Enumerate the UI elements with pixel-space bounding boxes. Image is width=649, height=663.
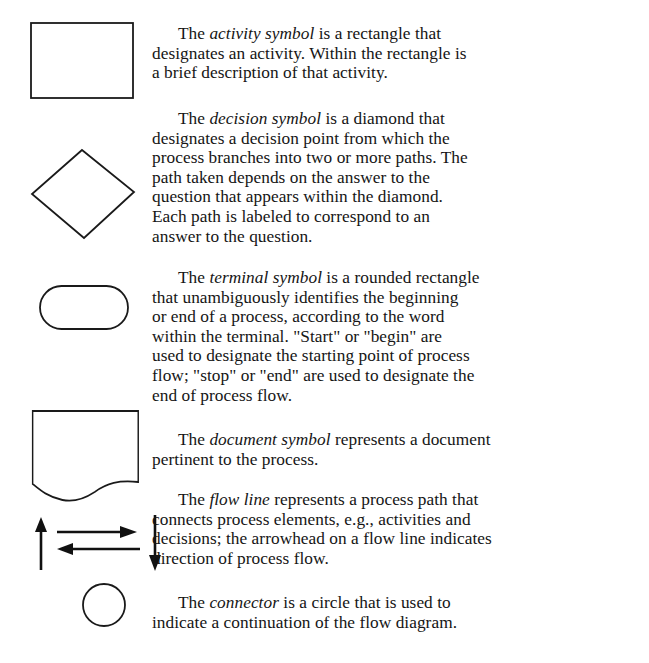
rectangle-shape — [31, 23, 133, 98]
term-terminal-symbol: terminal symbol — [209, 268, 322, 287]
term-activity-symbol: activity symbol — [209, 24, 314, 43]
entry-connector: The connector is a circle that is used t… — [152, 593, 632, 632]
term-flow-line: flow line — [209, 490, 269, 509]
entry-flow-line: The flow line represents a process path … — [152, 490, 632, 568]
entry-document: The document symbol represents a documen… — [152, 430, 632, 469]
diamond-shape — [32, 150, 134, 238]
entry-decision: The decision symbol is a diamond that de… — [152, 109, 632, 246]
term-document-symbol: document symbol — [209, 430, 330, 449]
term-decision-symbol: decision symbol — [209, 109, 321, 128]
terminal-shape — [40, 286, 128, 329]
document-shape — [33, 411, 139, 501]
connector-shape — [83, 584, 125, 626]
entry-activity: The activity symbol is a rectangle that … — [152, 24, 632, 83]
entry-terminal: The terminal symbol is a rounded rectang… — [152, 268, 632, 405]
term-connector: connector — [209, 593, 279, 612]
